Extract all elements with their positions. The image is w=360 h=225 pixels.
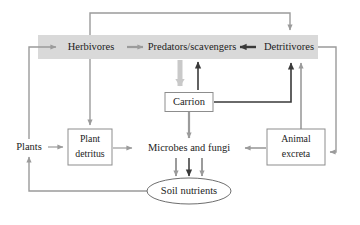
edge-herbivores-to-detritivores [90, 13, 290, 35]
node-label-animal-excreta-line2: excreta [282, 148, 311, 159]
node-label-soil-nutrients: Soil nutrients [161, 185, 217, 196]
node-label-plant-detritus-line2: detritus [75, 148, 105, 159]
node-label-herbivores: Herbivores [68, 41, 115, 52]
ecosystem-flow-diagram: Herbivores Predators/scavengers Detritiv… [0, 0, 360, 225]
diagram-canvas: Herbivores Predators/scavengers Detritiv… [0, 0, 360, 225]
node-label-plant-detritus-line1: Plant [80, 133, 100, 144]
node-label-microbes: Microbes and fungi [148, 142, 230, 153]
node-label-predators: Predators/scavengers [148, 41, 237, 52]
node-label-plants: Plants [16, 141, 42, 152]
edge-plants-to-herbivores [29, 47, 56, 139]
node-label-detritivores: Detritivores [264, 41, 314, 52]
node-label-animal-excreta-line1: Animal [281, 133, 311, 144]
edge-carrion-to-detritivores [214, 63, 291, 102]
node-label-carrion: Carrion [173, 96, 206, 107]
